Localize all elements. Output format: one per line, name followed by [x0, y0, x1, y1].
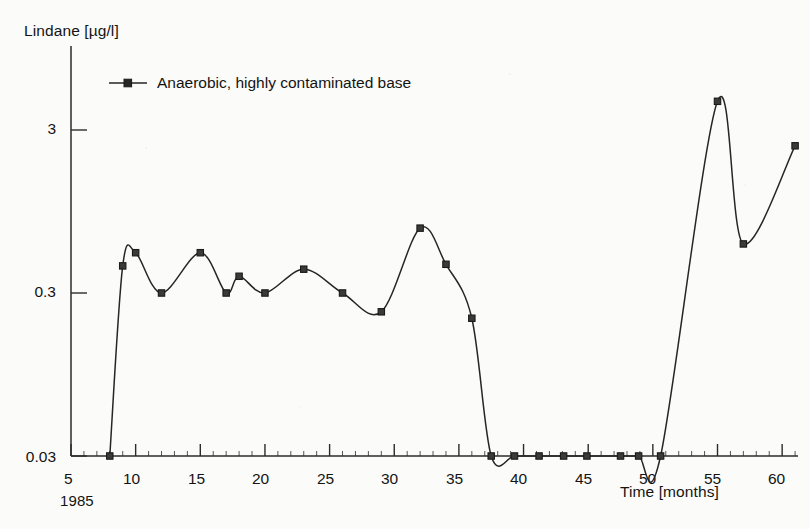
data-point-marker — [417, 225, 423, 231]
plot-area — [0, 0, 810, 529]
data-point-marker — [378, 309, 384, 315]
data-point-marker — [560, 453, 566, 459]
data-point-marker — [158, 290, 164, 296]
data-point-marker — [236, 273, 242, 279]
data-point-marker — [488, 453, 494, 459]
axis-lines — [71, 46, 798, 456]
data-point-marker — [223, 290, 229, 296]
data-point-marker — [536, 453, 542, 459]
data-series-line — [110, 96, 795, 482]
data-point-marker — [107, 453, 113, 459]
data-point-marker — [657, 453, 663, 459]
data-point-marker — [120, 263, 126, 269]
data-point-marker — [740, 241, 746, 247]
data-series-markers — [107, 98, 799, 459]
data-point-marker — [617, 453, 623, 459]
data-point-marker — [301, 266, 307, 272]
data-point-marker — [792, 143, 798, 149]
data-point-marker — [443, 261, 449, 267]
x-axis-ticks — [71, 444, 795, 456]
data-point-marker — [469, 315, 475, 321]
data-point-marker — [635, 453, 641, 459]
y-axis-ticks — [71, 130, 87, 456]
data-point-marker — [714, 98, 720, 104]
data-point-marker — [511, 453, 517, 459]
data-point-marker — [132, 250, 138, 256]
data-point-marker — [584, 453, 590, 459]
data-point-marker — [339, 290, 345, 296]
chart-figure: Lindane [µg/l] Time [months] 1985 3 0.3 … — [0, 0, 810, 529]
data-point-marker — [262, 290, 268, 296]
data-point-marker — [197, 250, 203, 256]
